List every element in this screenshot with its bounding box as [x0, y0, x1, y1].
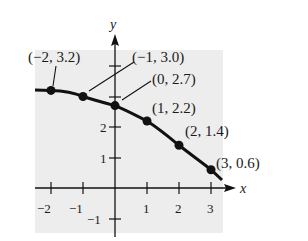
point-label: (2, 1.4): [185, 123, 229, 140]
data-point: [79, 92, 88, 101]
x-tick-label: 3: [207, 201, 214, 216]
data-point: [111, 101, 120, 110]
data-point: [175, 141, 184, 150]
chart: x y −2 −1 1 2 3 −1 1 2 (: [0, 0, 308, 241]
point-label: (−1, 3.0): [132, 49, 184, 66]
data-point: [207, 165, 216, 174]
point-label: (1, 2.2): [152, 100, 196, 117]
point-label: (3, 0.6): [216, 155, 260, 172]
x-tick-label: −1: [69, 201, 83, 216]
data-point: [47, 86, 56, 95]
x-axis-label: x: [239, 181, 247, 196]
y-tick-label: 1: [100, 151, 107, 166]
y-tick-label: 2: [100, 120, 107, 135]
data-point: [143, 117, 152, 126]
x-tick-label: −2: [37, 201, 51, 216]
x-tick-label: 1: [143, 201, 150, 216]
point-label: (0, 2.7): [152, 71, 196, 88]
y-tick-label: −1: [87, 212, 101, 227]
x-tick-label: 2: [175, 201, 182, 216]
point-label: (−2, 3.2): [28, 49, 80, 66]
y-axis-label: y: [108, 17, 117, 32]
